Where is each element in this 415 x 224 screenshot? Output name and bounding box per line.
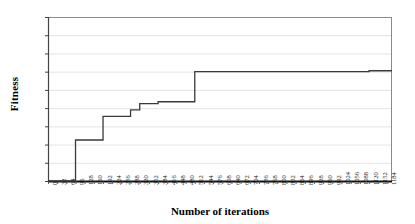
x-tick-label: 1152 [381,172,388,185]
x-tick-label: 896 [307,175,314,185]
x-axis-title: Number of iterations [48,205,392,217]
x-tick-label: 448 [179,175,186,185]
x-tick-label: 320 [142,175,149,185]
x-tick-label: 352 [152,175,159,185]
x-tick-label: 416 [170,175,177,185]
x-tick-label: 576 [216,175,223,185]
x-tick-label: 128 [87,175,94,185]
x-tick-label: 256 [124,175,131,185]
x-tick-label: 1024 [344,172,351,185]
x-tick-label: 672 [243,175,250,185]
x-tick-label: 160 [96,175,103,185]
x-tick-label: 832 [289,175,296,185]
fitness-convergence-chart: Fitness 00,20,40,60,811,21,41,61,8 03264… [0,0,415,224]
x-axis-tick-labels: 0326496128160192224256288320352384416448… [0,0,415,224]
x-tick-label: 224 [115,175,122,185]
x-tick-label: 192 [106,175,113,185]
x-tick-label: 1056 [353,172,360,185]
x-tick-label: 32 [60,179,67,186]
x-tick-label: 1184 [390,172,397,185]
x-tick-label: 704 [252,175,259,185]
x-tick-label: 384 [161,175,168,185]
x-tick-label: 992 [335,175,342,185]
x-tick-label: 96 [78,179,85,186]
x-tick-label: 288 [133,175,140,185]
x-tick-label: 64 [69,179,76,186]
x-tick-label: 736 [262,175,269,185]
x-tick-label: 960 [326,175,333,185]
x-tick-label: 608 [225,175,232,185]
x-tick-label: 544 [207,175,214,185]
x-tick-label: 768 [271,175,278,185]
x-tick-label: 928 [317,175,324,185]
x-tick-label: 0 [51,182,58,185]
x-tick-label: 480 [188,175,195,185]
x-tick-label: 640 [234,175,241,185]
x-tick-label: 1120 [372,172,379,185]
x-tick-label: 512 [197,175,204,185]
x-tick-label: 800 [280,175,287,185]
x-tick-label: 1088 [362,172,369,185]
x-tick-label: 864 [298,175,305,185]
